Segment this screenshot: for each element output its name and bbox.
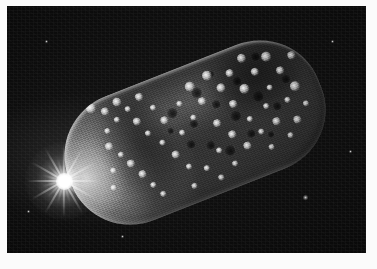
planetary-body bbox=[46, 22, 344, 244]
background-star bbox=[349, 150, 352, 153]
planetary-body-container bbox=[57, 20, 339, 238]
body-surface-grain bbox=[46, 22, 344, 244]
image-canvas bbox=[0, 0, 377, 269]
image-caption bbox=[7, 255, 366, 267]
background-star bbox=[45, 40, 48, 43]
background-star bbox=[27, 210, 30, 213]
astronomical-photograph bbox=[7, 6, 366, 253]
